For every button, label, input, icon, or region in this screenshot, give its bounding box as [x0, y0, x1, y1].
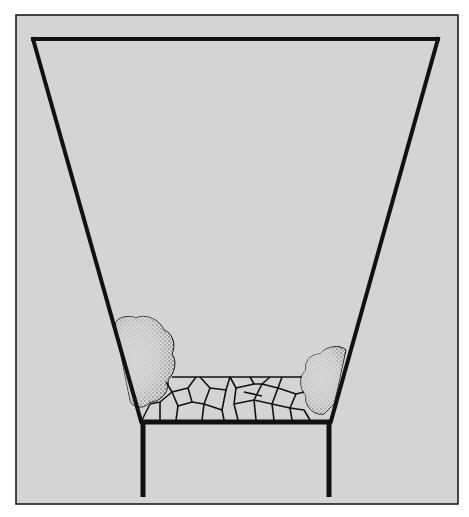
planting-pit-diagram	[0, 0, 469, 517]
outer-frame	[16, 15, 458, 504]
